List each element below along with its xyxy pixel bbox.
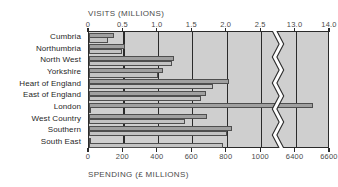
chart-row [89,44,328,56]
bottom-tick-label: 1000 [251,152,269,161]
category-label: Heart of England [19,79,81,88]
chart-row [89,67,328,79]
chart-row [89,79,328,91]
bar-visits [89,56,174,61]
category-label: London [54,102,81,111]
bar-spending [89,37,108,42]
category-label: Northumbria [36,44,81,53]
category-label: East of England [23,90,81,99]
bar-spending [89,108,91,113]
category-label: Southern [48,125,81,134]
bottom-tick-label: 800 [219,152,232,161]
bottom-tick-label: 400 [150,152,163,161]
bottom-tick-label: 200 [116,152,129,161]
bar-spending [89,119,185,124]
bar-visits [89,114,207,119]
bar-spending [89,61,172,66]
bar-visits [89,33,114,38]
top-axis-title: VISITS (MILLIONS) [88,9,164,18]
chart-row [89,114,328,126]
chart-row [89,55,328,67]
category-label: North West [40,55,81,64]
bar-visits [89,79,229,84]
bottom-axis-tick-labels: 0200400600800100064006600 [0,152,335,163]
bar-visits [89,103,313,108]
bottom-axis-title: SPENDING (£ MILLIONS) [88,170,189,179]
bottom-tick-label: 6400 [286,152,304,161]
bar-visits [89,68,163,73]
chart-row [89,91,328,103]
bottom-tick-label: 0 [86,152,90,161]
bar-visits [89,138,91,143]
bottom-tick-label: 600 [185,152,198,161]
bar-spending [89,84,213,89]
category-label: West Country [31,114,81,123]
bar-spending [89,96,201,101]
category-axis-labels: CumbriaNorthumbriaNorth WestYorkshireHea… [0,31,85,148]
bar-spending [89,72,158,77]
bar-visits [89,126,232,131]
plot-area: 2.52 [88,31,329,148]
bar-spending [89,49,122,54]
chart-row [89,32,328,44]
bottom-tick-label: 6600 [320,152,338,161]
bar-spending [89,131,227,136]
chart-row [89,126,328,138]
chart-row [89,102,328,114]
category-label: Cumbria [50,32,81,41]
bar-visits [89,91,206,96]
category-label: South East [41,137,81,146]
category-label: Yorkshire [47,67,81,76]
bar-visits [89,44,125,49]
